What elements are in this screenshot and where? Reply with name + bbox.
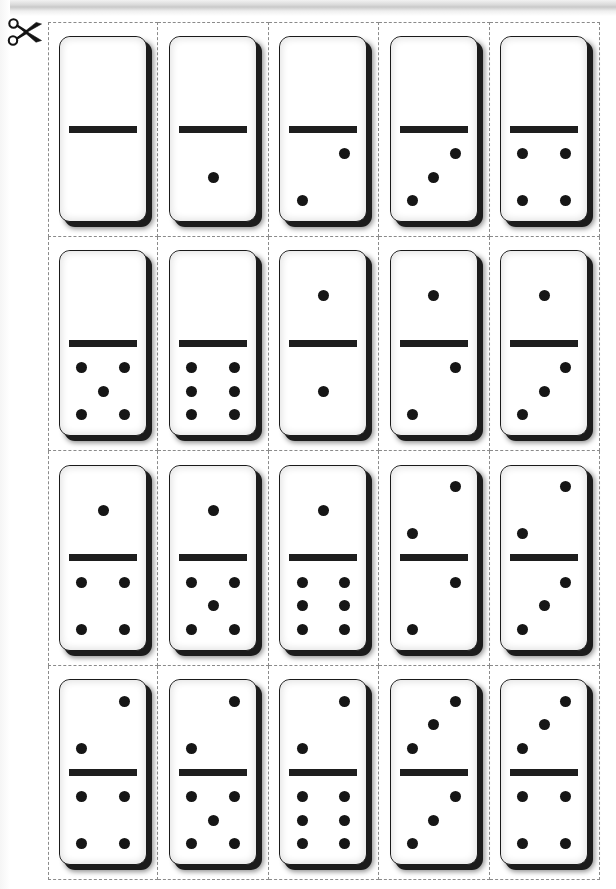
domino-divider xyxy=(289,554,357,561)
pip-group-bottom-5 xyxy=(71,356,135,427)
domino-2-4[interactable] xyxy=(59,679,147,865)
domino-half-bottom xyxy=(170,347,256,436)
pip xyxy=(297,624,308,635)
pip-group-bottom-6 xyxy=(291,785,355,856)
domino-divider xyxy=(289,769,357,776)
domino-half-top xyxy=(280,466,366,555)
pip xyxy=(339,577,350,588)
pip xyxy=(119,624,130,635)
domino-0-1[interactable] xyxy=(169,36,257,222)
domino-half-bottom xyxy=(60,347,146,436)
cut-cell xyxy=(379,666,489,881)
pip xyxy=(339,815,350,826)
domino-divider xyxy=(510,769,578,776)
pip-group-top-2 xyxy=(181,689,245,760)
cut-cell xyxy=(379,451,489,666)
pip xyxy=(229,386,240,397)
domino-cutout-sheet xyxy=(0,0,616,889)
domino-half-top xyxy=(60,466,146,555)
pip-group-bottom-6 xyxy=(291,570,355,641)
domino-0-2[interactable] xyxy=(279,36,367,222)
domino-0-0[interactable] xyxy=(59,36,147,222)
pip xyxy=(119,409,130,420)
domino-2-3[interactable] xyxy=(500,465,588,651)
pip xyxy=(186,624,197,635)
domino-half-top xyxy=(501,680,587,769)
domino-half-bottom xyxy=(60,133,146,222)
domino-divider xyxy=(289,126,357,133)
pip xyxy=(119,577,130,588)
cut-grid xyxy=(48,22,600,880)
scissors-icon xyxy=(6,16,46,50)
pip-group-bottom-5 xyxy=(181,570,245,641)
domino-half-top xyxy=(501,37,587,126)
pip xyxy=(318,505,329,516)
domino-1-6[interactable] xyxy=(279,465,367,651)
domino-1-1[interactable] xyxy=(279,250,367,436)
pip xyxy=(229,838,240,849)
domino-2-2[interactable] xyxy=(390,465,478,651)
pip-group-bottom-0 xyxy=(71,142,135,213)
domino-3-3[interactable] xyxy=(390,679,478,865)
domino-0-4[interactable] xyxy=(500,36,588,222)
pip xyxy=(560,195,571,206)
pip xyxy=(186,386,197,397)
pip-group-top-3 xyxy=(512,689,576,760)
domino-divider xyxy=(179,340,247,347)
domino-half-bottom xyxy=(170,776,256,865)
domino-half-bottom xyxy=(391,561,477,650)
domino-1-3[interactable] xyxy=(500,250,588,436)
domino-2-5[interactable] xyxy=(169,679,257,865)
domino-half-top xyxy=(391,37,477,126)
pip-group-top-0 xyxy=(181,46,245,117)
pip xyxy=(76,577,87,588)
domino-divider xyxy=(510,554,578,561)
domino-2-6[interactable] xyxy=(279,679,367,865)
pip-group-top-0 xyxy=(512,46,576,117)
pip xyxy=(98,505,109,516)
pip xyxy=(560,791,571,802)
domino-half-top xyxy=(391,680,477,769)
pip-group-top-3 xyxy=(402,689,466,760)
pip xyxy=(119,362,130,373)
pip-group-top-0 xyxy=(71,260,135,331)
domino-half-bottom xyxy=(170,561,256,650)
domino-half-bottom xyxy=(391,133,477,222)
domino-3-4[interactable] xyxy=(500,679,588,865)
pip-group-top-2 xyxy=(512,475,576,546)
pip xyxy=(517,148,528,159)
pip-group-top-1 xyxy=(71,475,135,546)
domino-0-3[interactable] xyxy=(390,36,478,222)
cut-cell xyxy=(48,451,158,666)
domino-0-5[interactable] xyxy=(59,250,147,436)
scan-edge-shadow-left xyxy=(0,0,10,889)
domino-divider xyxy=(400,554,468,561)
pip xyxy=(428,172,439,183)
pip-group-bottom-4 xyxy=(71,785,135,856)
pip xyxy=(76,743,87,754)
pip xyxy=(407,743,418,754)
pip xyxy=(560,362,571,373)
domino-half-top xyxy=(170,37,256,126)
domino-half-top xyxy=(60,37,146,126)
cut-cell xyxy=(48,237,158,452)
domino-0-6[interactable] xyxy=(169,250,257,436)
pip xyxy=(517,528,528,539)
pip-group-top-0 xyxy=(71,46,135,117)
cut-cell xyxy=(269,666,379,881)
domino-half-bottom xyxy=(280,347,366,436)
pip xyxy=(539,290,550,301)
pip xyxy=(208,505,219,516)
pip xyxy=(229,791,240,802)
pip-group-top-0 xyxy=(291,46,355,117)
domino-half-top xyxy=(280,680,366,769)
pip xyxy=(339,624,350,635)
domino-half-bottom xyxy=(280,561,366,650)
pip-group-bottom-2 xyxy=(291,142,355,213)
domino-1-5[interactable] xyxy=(169,465,257,651)
domino-1-2[interactable] xyxy=(390,250,478,436)
pip xyxy=(560,481,571,492)
pip xyxy=(208,172,219,183)
pip xyxy=(229,696,240,707)
domino-1-4[interactable] xyxy=(59,465,147,651)
